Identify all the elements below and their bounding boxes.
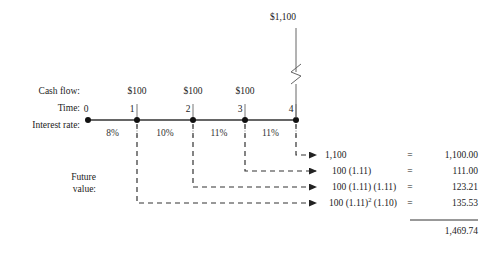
fv-formula-row-1: 1,100 xyxy=(325,150,346,161)
future-value-label-line2: value: xyxy=(0,184,96,196)
future-value-label: Future value: xyxy=(0,172,96,195)
fv-equals-row-4: = xyxy=(404,198,416,209)
break-mark-icon xyxy=(291,64,301,84)
time-point-1: 1 xyxy=(125,104,139,115)
cash-flow-amount-2: $100 xyxy=(168,86,218,97)
time-point-2: 2 xyxy=(181,104,195,115)
fv-formula-row-2: 100 (1.11) xyxy=(332,166,371,177)
fv-amount-row-4: 135.53 xyxy=(418,198,478,209)
fv-formula-row-4-post: (1.10) xyxy=(371,198,396,208)
interest-rate-row-label: Interest rate: xyxy=(0,120,80,131)
timeline-ticks xyxy=(137,104,296,120)
cash-flow-amount-1: $100 xyxy=(112,86,162,97)
future-value-label-line1: Future xyxy=(0,172,96,184)
fv-route-row-1 xyxy=(296,124,316,155)
time-point-4: 4 xyxy=(284,104,298,115)
interest-rate-segment-2: 10% xyxy=(137,128,193,139)
cash-flow-row-label: Cash flow: xyxy=(0,86,80,97)
cash-flow-amount-3: $100 xyxy=(220,86,270,97)
fv-formula-row-3: 100 (1.11) (1.11) xyxy=(332,182,396,193)
interest-rate-segment-1: 8% xyxy=(88,128,137,139)
timeline-diagram: Cash flow: Time: Interest rate: Future v… xyxy=(0,0,488,258)
fv-equals-row-2: = xyxy=(404,166,416,177)
future-value-total: 1,469.74 xyxy=(408,226,478,237)
fv-equals-row-3: = xyxy=(404,182,416,193)
time-point-3: 3 xyxy=(233,104,247,115)
timeline-nodes xyxy=(85,117,299,123)
interest-rate-segment-4: 11% xyxy=(245,128,296,139)
terminal-cashflow-label: $1,100 xyxy=(258,12,308,23)
fv-equals-row-1: = xyxy=(404,150,416,161)
fv-formula-row-4: 100 (1.11)2 (1.10) xyxy=(329,198,397,209)
time-row-label: Time: xyxy=(0,103,80,114)
fv-amount-row-3: 123.21 xyxy=(418,182,478,193)
fv-formula-row-4-pre: 100 (1.11) xyxy=(329,198,368,208)
time-point-0: 0 xyxy=(79,104,93,115)
fv-amount-row-2: 111.00 xyxy=(418,166,478,177)
fv-amount-row-1: 1,100.00 xyxy=(418,150,478,161)
interest-rate-segment-3: 11% xyxy=(193,128,245,139)
